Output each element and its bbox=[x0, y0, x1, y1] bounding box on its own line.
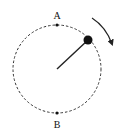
rod bbox=[57, 40, 88, 69]
point-b-label: B bbox=[54, 119, 61, 130]
point-a-dot bbox=[55, 23, 58, 26]
clockwise-arrow-icon bbox=[92, 18, 112, 44]
point-a-label: A bbox=[53, 10, 61, 21]
point-b-dot bbox=[55, 111, 58, 114]
ball bbox=[84, 36, 93, 45]
circular-motion-diagram: A B bbox=[0, 0, 117, 136]
